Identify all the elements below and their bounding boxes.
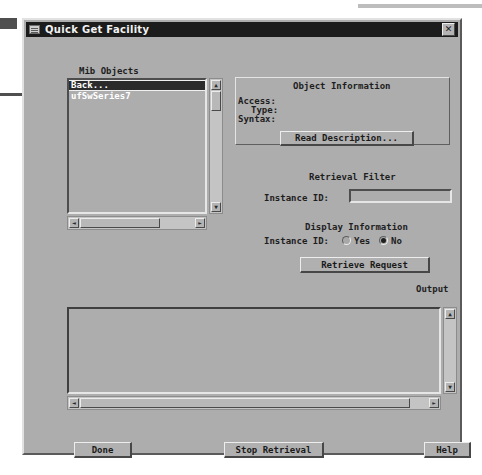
syntax-label: Syntax:: [238, 114, 276, 124]
mib-horizontal-scrollbar-thumb[interactable]: [80, 218, 160, 228]
scroll-right-icon[interactable]: ►: [195, 218, 205, 228]
scroll-up-icon[interactable]: ▲: [445, 309, 455, 319]
titlebar[interactable]: Quick Get Facility ✕: [26, 22, 458, 37]
object-information-title: Object Information: [293, 81, 391, 91]
instance-id-display-label: Instance ID:: [264, 236, 329, 246]
scroll-right-icon[interactable]: ►: [429, 398, 439, 408]
mib-horizontal-scrollbar[interactable]: ◄ ►: [67, 216, 207, 230]
output-horizontal-scrollbar[interactable]: ◄ ►: [67, 396, 441, 410]
output-textarea[interactable]: [67, 307, 441, 394]
mib-objects-list-frame: Back... ufSwSeries7 ▲ ▼ ◄ ►: [67, 78, 223, 230]
window-title: Quick Get Facility: [45, 24, 149, 35]
scroll-down-icon[interactable]: ▼: [211, 202, 221, 212]
retrieval-filter-title: Retrieval Filter: [309, 172, 396, 182]
quick-get-facility-window: Quick Get Facility ✕ Mib Objects Back...…: [22, 18, 462, 455]
mib-vertical-scrollbar-thumb[interactable]: [211, 91, 221, 111]
read-description-button[interactable]: Read Description...: [280, 131, 414, 146]
radio-yes-label[interactable]: Yes: [354, 236, 370, 246]
radio-instance-id-no[interactable]: [379, 236, 388, 245]
help-button[interactable]: Help: [424, 442, 471, 458]
instance-id-filter-label: Instance ID:: [264, 193, 329, 203]
close-icon[interactable]: ✕: [442, 23, 455, 36]
list-item[interactable]: Back...: [69, 80, 205, 91]
instance-id-input[interactable]: [349, 189, 452, 203]
window-menu-icon[interactable]: [29, 25, 40, 34]
stop-retrieval-button[interactable]: Stop Retrieval: [224, 442, 324, 458]
scan-artifact-top: [0, 18, 17, 29]
list-item[interactable]: ufSwSeries7: [69, 91, 205, 101]
retrieve-request-button[interactable]: Retrieve Request: [300, 257, 430, 273]
display-information-title: Display Information: [305, 222, 408, 232]
scroll-up-icon[interactable]: ▲: [211, 80, 221, 90]
output-vertical-scrollbar[interactable]: ▲ ▼: [443, 307, 457, 394]
mib-vertical-scrollbar[interactable]: ▲ ▼: [209, 78, 223, 214]
scan-artifact-bottom: [0, 93, 22, 96]
radio-no-label[interactable]: No: [391, 236, 402, 246]
mib-objects-label: Mib Objects: [79, 66, 139, 76]
scan-artifact-line: [358, 4, 482, 8]
output-frame: ▲ ▼ ◄ ►: [67, 307, 457, 410]
scroll-left-icon[interactable]: ◄: [69, 398, 79, 408]
done-button[interactable]: Done: [74, 442, 132, 458]
output-horizontal-scrollbar-thumb[interactable]: [80, 398, 410, 408]
scroll-left-icon[interactable]: ◄: [69, 218, 79, 228]
mib-objects-list[interactable]: Back... ufSwSeries7: [67, 78, 207, 214]
scroll-down-icon[interactable]: ▼: [445, 382, 455, 392]
radio-instance-id-yes[interactable]: [342, 236, 351, 245]
output-label: Output: [416, 284, 449, 294]
